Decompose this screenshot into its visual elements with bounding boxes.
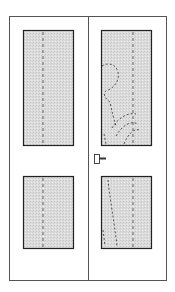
right-upper-glass: [102, 31, 152, 146]
door-diagram: [0, 0, 175, 292]
left-lower-glass: [24, 177, 74, 249]
left-upper-glass: [24, 31, 74, 146]
right-lower-glass: [102, 177, 152, 249]
